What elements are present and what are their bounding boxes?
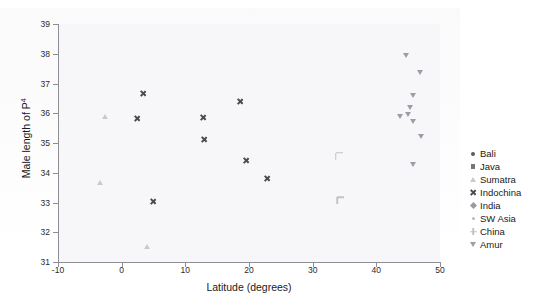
legend-item-sumatra[interactable]: Sumatra	[466, 173, 546, 186]
y-tick-label: 38	[4, 50, 50, 58]
legend-item-indochina[interactable]: Indochina	[466, 186, 546, 199]
data-point	[403, 58, 409, 76]
x-tick-label: 10	[181, 265, 190, 275]
legend-label: Sumatra	[480, 174, 516, 185]
legend-item-sw-asia[interactable]: SW Asia	[466, 212, 546, 225]
y-axis-title-superscript: 4	[20, 98, 27, 102]
legend-marker	[466, 212, 480, 225]
legend-item-china[interactable]: China	[466, 225, 546, 238]
legend-label: SW Asia	[480, 213, 516, 224]
y-axis-title-text: Male length of P	[20, 102, 32, 178]
data-point	[102, 97, 108, 115]
marker-plus-icon	[470, 228, 477, 235]
marker-down-triangle-icon	[470, 242, 476, 247]
y-tick-label: 39	[4, 20, 50, 28]
marker-diamond-icon	[469, 202, 476, 209]
marker-square-icon	[471, 164, 476, 169]
marker-triangle-icon	[470, 177, 476, 182]
legend-label: Java	[480, 161, 500, 172]
legend-marker	[466, 199, 480, 212]
data-point	[97, 163, 103, 181]
legend-marker	[466, 173, 480, 186]
x-tick-label: -10	[52, 265, 64, 275]
data-point	[410, 167, 416, 185]
marker-down-triangle-icon	[397, 114, 403, 136]
marker-down-triangle-icon	[403, 53, 409, 75]
data-point	[397, 119, 403, 137]
x-tick-label: 50	[435, 265, 444, 275]
marker-triangle-icon	[144, 227, 150, 249]
legend-marker	[466, 186, 480, 199]
legend-marker	[466, 147, 480, 160]
legend-item-amur[interactable]: Amur	[466, 238, 546, 251]
marker-down-triangle-icon	[410, 162, 416, 184]
legend-label: Indochina	[480, 187, 521, 198]
x-tick-label: 30	[308, 265, 317, 275]
legend-item-india[interactable]: India	[466, 199, 546, 212]
data-point	[410, 124, 416, 142]
legend-label: Bali	[480, 148, 496, 159]
legend-label: India	[480, 200, 501, 211]
marker-x-icon	[470, 189, 477, 196]
data-point	[417, 75, 423, 93]
legend-marker	[466, 225, 480, 238]
x-tick-label: 40	[372, 265, 381, 275]
legend-label: China	[480, 226, 505, 237]
marker-down-triangle-icon	[417, 70, 423, 92]
marker-down-triangle-icon	[418, 134, 424, 156]
marker-triangle-icon	[97, 163, 103, 185]
data-point	[418, 139, 424, 157]
legend-item-java[interactable]: Java	[466, 160, 546, 173]
legend-item-bali[interactable]: Bali	[466, 147, 546, 160]
legend-marker	[466, 238, 480, 251]
y-axis-title: Male length of P4	[20, 68, 33, 208]
x-axis-title: Latitude (degrees)	[58, 281, 440, 293]
chart-root: 313233343536373839 -1001020304050 Latitu…	[0, 0, 547, 306]
legend-marker	[466, 160, 480, 173]
data-point	[144, 227, 150, 245]
y-tick-label: 32	[4, 228, 50, 236]
x-tick-label: 0	[119, 265, 124, 275]
legend-label: Amur	[480, 239, 503, 250]
marker-circle-icon	[471, 152, 475, 156]
x-tick-label: 20	[244, 265, 253, 275]
legend: BaliJavaSumatraIndochinaIndiaSW AsiaChin…	[466, 147, 546, 251]
plot-area	[58, 24, 440, 262]
marker-dot-icon	[472, 217, 475, 220]
marker-down-triangle-icon	[410, 119, 416, 141]
y-tick-label: 31	[4, 258, 50, 266]
marker-triangle-icon	[102, 97, 108, 119]
